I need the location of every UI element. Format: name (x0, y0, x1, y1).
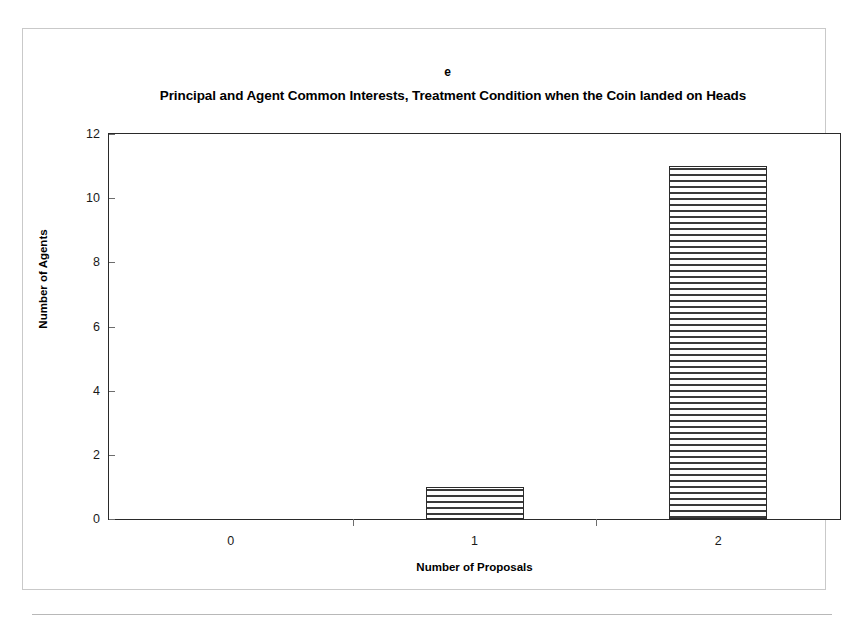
x-axis-tick-label: 2 (715, 535, 722, 548)
x-axis-tick-mark (596, 519, 597, 526)
plot-area: 024681012012 (108, 133, 841, 520)
x-axis-tick-mark (353, 519, 354, 526)
y-axis-tick-mark (109, 134, 115, 135)
y-axis-tick-label: 12 (40, 128, 100, 141)
y-axis-tick-mark (109, 327, 115, 328)
x-axis-tick-label: 1 (471, 535, 478, 548)
y-axis-tick-mark (109, 455, 115, 456)
y-axis-tick-label: 4 (40, 384, 100, 397)
bar-2 (669, 166, 767, 519)
panel-letter: e (23, 65, 849, 79)
page-scan-rule (32, 614, 832, 615)
y-axis-tick-mark (109, 519, 115, 520)
y-axis-tick-mark (109, 391, 115, 392)
x-axis-title: Number of Proposals (108, 561, 841, 573)
y-axis-tick-label: 0 (40, 513, 100, 526)
y-axis-tick-label: 8 (40, 256, 100, 269)
y-axis-tick-label: 2 (40, 449, 100, 462)
x-axis-tick-label: 0 (227, 535, 234, 548)
y-axis-tick-label: 10 (40, 192, 100, 205)
y-axis-tick-mark (109, 198, 115, 199)
figure-frame: e Principal and Agent Common Interests, … (22, 28, 826, 590)
bar-1 (426, 487, 524, 519)
y-axis-tick-mark (109, 262, 115, 263)
y-axis-tick-label: 6 (40, 320, 100, 333)
chart-title: Principal and Agent Common Interests, Tr… (153, 85, 753, 106)
